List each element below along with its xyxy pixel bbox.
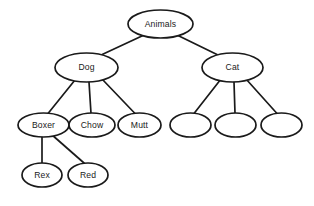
node-label-rex: Rex <box>34 170 50 180</box>
tree-node-chow[interactable]: Chow <box>69 113 115 137</box>
tree-node-red[interactable]: Red <box>68 163 108 187</box>
node-label-mutt: Mutt <box>131 120 149 130</box>
node-label-red: Red <box>80 170 96 180</box>
tree-edge-cat-to-cat-child-1 <box>194 79 221 114</box>
tree-node-rex[interactable]: Rex <box>22 163 62 187</box>
node-label-animals: Animals <box>145 19 177 29</box>
tree-edge-animals-to-cat <box>178 36 219 56</box>
tree-edge-cat-to-cat-child-2 <box>234 82 235 114</box>
node-ellipse-cat-child-2[interactable] <box>215 113 256 137</box>
tree-edge-dog-to-boxer <box>48 80 75 114</box>
node-label-chow: Chow <box>81 120 104 130</box>
node-label-cat: Cat <box>226 62 240 72</box>
node-label-boxer: Boxer <box>32 120 55 130</box>
tree-node-boxer[interactable]: Boxer <box>18 113 69 137</box>
tree-node-cat-child-1[interactable] <box>170 113 211 137</box>
tree-node-cat-child-2[interactable] <box>215 113 256 137</box>
node-ellipse-cat-child-1[interactable] <box>170 113 211 137</box>
tree-node-mutt[interactable]: Mutt <box>118 113 161 137</box>
tree-edge-dog-to-chow <box>89 82 91 114</box>
tree-diagram: AnimalsDogCatBoxerChowMuttRexRed <box>0 0 314 206</box>
tree-edge-boxer-to-red <box>51 134 84 163</box>
tree-edge-animals-to-dog <box>100 36 143 56</box>
tree-edge-cat-to-cat-child-3 <box>246 79 277 114</box>
tree-node-cat-child-3[interactable] <box>261 113 302 137</box>
node-ellipse-cat-child-3[interactable] <box>261 113 302 137</box>
tree-node-animals[interactable]: Animals <box>128 10 193 38</box>
tree-edge-dog-to-mutt <box>102 79 135 114</box>
node-label-dog: Dog <box>78 62 94 72</box>
diagram-canvas: AnimalsDogCatBoxerChowMuttRexRed <box>0 0 314 206</box>
tree-node-dog[interactable]: Dog <box>55 53 118 82</box>
tree-node-cat[interactable]: Cat <box>202 53 263 82</box>
